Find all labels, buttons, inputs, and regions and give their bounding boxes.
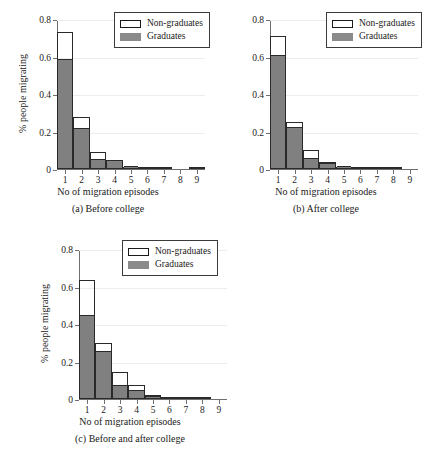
bar-graduates: [74, 128, 88, 168]
x-axis-tick-label: 3: [96, 175, 101, 185]
chart-panel-c: 00.20.40.60.8123456789 % people migratin…: [22, 228, 238, 450]
x-axis-tick-label: 9: [407, 175, 412, 185]
bar-graduates: [146, 396, 160, 399]
x-axis-tick: [186, 400, 187, 404]
bar-graduates: [113, 385, 127, 398]
chart-panel-b: 00.20.40.60.8123456789 No of migration e…: [218, 0, 434, 216]
x-axis-tick: [410, 170, 411, 174]
x-axis-tick: [164, 170, 165, 174]
bar-nongraduates: [79, 280, 95, 399]
legend-row-non-graduates: Non-graduates: [128, 245, 211, 258]
y-axis-tick-label: 0.2: [61, 358, 73, 368]
bar-graduates: [304, 158, 318, 168]
gridline: [270, 95, 418, 96]
x-axis-tick-label: 1: [85, 405, 90, 415]
x-axis-tick-label: 4: [325, 175, 330, 185]
y-axis-tick: [75, 250, 79, 251]
x-axis-tick: [180, 170, 181, 174]
bar-nongraduates: [90, 152, 106, 169]
x-axis-tick-label: 1: [63, 175, 68, 185]
x-axis-tick: [120, 400, 121, 404]
bar-nongraduates: [319, 162, 335, 170]
bar-nongraduates: [123, 167, 139, 169]
bar-nongraduates: [369, 167, 385, 169]
x-axis-tick: [169, 400, 170, 404]
panel-caption-c: (c) Before and after college: [22, 433, 238, 444]
legend-swatch-graduates-icon: [120, 33, 141, 41]
y-axis-tick-label: 0.2: [252, 128, 264, 138]
x-axis-tick: [98, 170, 99, 174]
y-axis-tick-label: 0.6: [39, 53, 51, 63]
x-axis-tick: [87, 400, 88, 404]
legend-swatch-graduates-icon: [128, 261, 149, 269]
y-axis-tick-label: 0.4: [61, 320, 73, 330]
y-axis-tick: [266, 170, 270, 171]
legend-row-graduates: Graduates: [332, 30, 415, 43]
x-axis-tick: [197, 170, 198, 174]
legend-b: Non-graduates Graduates: [326, 12, 422, 48]
x-axis-tick: [393, 170, 394, 174]
x-axis-tick-label: 7: [184, 405, 189, 415]
bar-graduates: [124, 166, 138, 168]
y-axis-tick-label: 0.2: [39, 128, 51, 138]
bar-nongraduates: [270, 36, 286, 169]
x-axis-tick: [295, 170, 296, 174]
gridline: [270, 58, 418, 59]
y-axis-label: % people migrating: [17, 44, 28, 144]
x-axis-tick: [360, 170, 361, 174]
bar-graduates: [58, 59, 72, 168]
x-axis-tick-label: 2: [292, 175, 297, 185]
legend-label-non-graduates: Non-graduates: [147, 19, 203, 29]
bar-nongraduates: [161, 397, 177, 399]
bar-nongraduates: [286, 122, 302, 169]
bar-nongraduates: [303, 150, 319, 169]
gridline: [57, 58, 205, 59]
legend-label-graduates: Graduates: [147, 32, 186, 42]
bar-graduates: [91, 159, 105, 168]
y-axis-tick-label: 0.8: [39, 15, 51, 25]
x-axis-tick-label: 7: [375, 175, 380, 185]
bar-nongraduates: [178, 397, 194, 399]
bar-nongraduates: [112, 372, 128, 399]
bar-nongraduates: [156, 167, 172, 169]
panel-caption-a: (a) Before college: [0, 203, 216, 214]
x-axis-tick-label: 5: [151, 405, 156, 415]
bar-nongraduates: [73, 117, 89, 170]
bar-nongraduates: [189, 167, 205, 169]
gridline: [79, 325, 227, 326]
x-axis-tick: [147, 170, 148, 174]
x-axis-label: No of migration episodes: [218, 186, 434, 197]
y-axis-tick: [75, 400, 79, 401]
bar-graduates: [96, 351, 110, 398]
x-axis-label: No of migration episodes: [0, 186, 216, 197]
x-axis-tick-label: 9: [194, 175, 199, 185]
y-axis-tick: [53, 170, 57, 171]
y-axis-tick-label: 0.4: [252, 90, 264, 100]
legend-row-graduates: Graduates: [120, 30, 203, 43]
legend-swatch-graduates-icon: [332, 33, 353, 41]
x-axis-tick: [311, 170, 312, 174]
legend-label-non-graduates: Non-graduates: [359, 19, 415, 29]
x-axis-tick: [202, 400, 203, 404]
bar-nongraduates: [385, 167, 401, 169]
x-axis-tick-label: 6: [145, 175, 150, 185]
y-axis-tick-label: 0: [46, 165, 51, 175]
y-axis-tick-label: 0.4: [39, 90, 51, 100]
x-axis-tick-label: 5: [129, 175, 134, 185]
bar-graduates: [320, 163, 334, 168]
x-axis-tick: [377, 170, 378, 174]
y-axis-tick-label: 0.6: [61, 283, 73, 293]
x-axis-tick-label: 7: [162, 175, 167, 185]
x-axis-tick: [115, 170, 116, 174]
x-axis-tick: [82, 170, 83, 174]
bar-graduates: [107, 160, 121, 168]
y-axis-tick-label: 0.8: [61, 245, 73, 255]
legend-a: Non-graduates Graduates: [114, 12, 210, 48]
x-axis-tick: [153, 400, 154, 404]
x-axis-tick-label: 6: [358, 175, 363, 185]
y-axis-tick-label: 0.6: [252, 53, 264, 63]
legend-row-non-graduates: Non-graduates: [120, 17, 203, 30]
x-axis-tick-label: 4: [112, 175, 117, 185]
bar-graduates: [337, 166, 351, 168]
legend-label-graduates: Graduates: [359, 32, 398, 42]
